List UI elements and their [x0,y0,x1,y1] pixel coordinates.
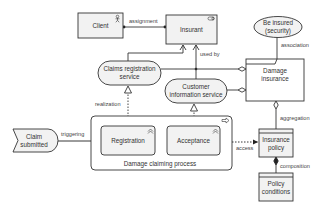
claim-submitted-label-line2: submitted [20,141,48,148]
node-damage-insurance[interactable]: Damage insurance [246,59,304,101]
node-insurance-policy[interactable]: Insurance policy [259,129,293,157]
client-label: Client [92,22,108,29]
node-insurant[interactable]: Insurant [166,15,217,44]
triggering-label: triggering [61,131,84,137]
node-claim-submitted[interactable]: Claim submitted [13,129,58,152]
insurant-label: Insurant [180,26,203,33]
composition-label: composition [280,163,310,169]
assignment-relation[interactable]: assignment [124,18,165,27]
used-by-relation-customer[interactable]: used by [195,45,220,79]
association-relation[interactable]: association [277,37,309,59]
composition-relation[interactable]: composition [274,157,310,173]
used-by-label: used by [200,51,220,57]
used-by-relation-claims[interactable] [128,45,183,61]
realization-label: realization [95,101,121,107]
acceptance-label: Acceptance [177,137,210,145]
composition-diamond-icon [274,157,278,165]
node-policy-conditions[interactable]: Policy conditions [259,173,293,201]
customer-information-service-label-line2: information service [170,91,223,98]
node-registration[interactable]: Registration [101,126,155,155]
node-claims-registration-service[interactable]: Claims registration service [98,61,161,85]
association-label: association [281,42,309,48]
policy-conditions-label-line1: Policy [268,180,286,188]
claims-registration-service-label-line2: service [120,73,140,80]
node-acceptance[interactable]: Acceptance [167,126,220,155]
realization-triangle-icon [191,104,198,111]
claim-submitted-label-line1: Claim [26,133,42,140]
aggregation-diamond-icon [274,101,278,109]
be-insured-label-line2: (security) [265,27,291,35]
node-be-insured[interactable]: Be insured (security) [254,17,302,38]
be-insured-label-line1: Be insured [263,19,294,26]
aggregation-relation-policy[interactable]: aggregation [274,101,310,129]
damage-claiming-process-label: Damage claiming process [124,160,196,168]
aggregation-diamond-icon [238,67,246,71]
damage-insurance-label-line2: insurance [261,75,289,82]
node-customer-information-service[interactable]: Customer information service [165,79,227,103]
assignment-label: assignment [129,18,158,24]
insurance-policy-label-line2: policy [268,144,285,152]
aggregation-label: aggregation [280,115,310,121]
damage-insurance-label-line1: Damage [263,67,287,75]
registration-label: Registration [111,137,145,145]
realization-triangle-icon [125,86,132,93]
aggregation-relation-customer-service[interactable] [227,88,246,92]
node-client[interactable]: Client [78,13,123,38]
claims-registration-service-label-line1: Claims registration [103,65,156,73]
customer-information-service-label-line1: Customer [182,83,209,90]
insurance-policy-label-line1: Insurance [262,136,290,143]
aggregation-diamond-icon [238,88,246,92]
access-label: access [236,145,254,151]
aggregation-relation-claims-service[interactable] [161,67,246,71]
policy-conditions-label-line2: conditions [262,188,290,195]
